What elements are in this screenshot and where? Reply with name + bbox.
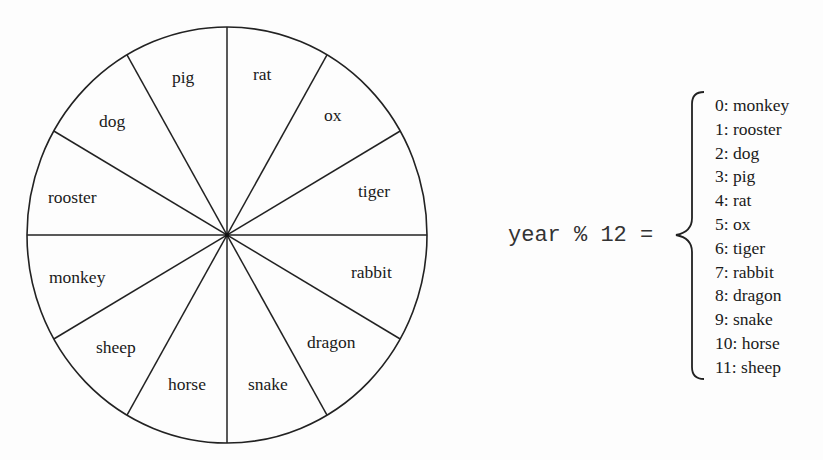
mapping-item-8: 8: dragon — [715, 285, 782, 305]
mapping-item-7: 7: rabbit — [715, 262, 774, 282]
wheel-hub — [225, 233, 229, 237]
wheel-label-horse: horse — [168, 374, 206, 394]
zodiac-wheel: rat ox tiger rabbit dragon snake horse s… — [27, 27, 427, 443]
wheel-label-ox: ox — [324, 105, 342, 125]
wheel-label-sheep: sheep — [96, 337, 136, 357]
wheel-label-pig: pig — [172, 67, 195, 87]
mapping-item-11: 11: sheep — [715, 357, 781, 377]
mapping-item-6: 6: tiger — [715, 238, 765, 258]
wheel-label-rat: rat — [253, 64, 272, 84]
mapping-item-0: 0: monkey — [715, 95, 790, 115]
curly-brace — [676, 92, 704, 379]
wheel-label-monkey: monkey — [49, 267, 106, 287]
mapping-item-3: 3: pig — [715, 166, 756, 186]
mapping-item-4: 4: rat — [715, 190, 752, 210]
wheel-label-dog: dog — [99, 111, 126, 131]
wheel-label-tiger: tiger — [358, 181, 390, 201]
wheel-labels: rat ox tiger rabbit dragon snake horse s… — [48, 64, 392, 394]
wheel-label-rooster: rooster — [48, 187, 97, 207]
wheel-label-dragon: dragon — [307, 332, 356, 352]
mapping-item-9: 9: snake — [715, 309, 773, 329]
mapping-item-5: 5: ox — [715, 214, 751, 234]
mapping-item-1: 1: rooster — [715, 119, 782, 139]
wheel-label-rabbit: rabbit — [351, 262, 392, 282]
mapping-list: 0: monkey 1: rooster 2: dog 3: pig 4: ra… — [715, 95, 790, 377]
zodiac-diagram: rat ox tiger rabbit dragon snake horse s… — [0, 0, 823, 460]
modulo-formula: year % 12 = — [508, 223, 653, 248]
mapping-item-2: 2: dog — [715, 143, 759, 163]
mapping-item-10: 10: horse — [715, 333, 780, 353]
wheel-label-snake: snake — [248, 374, 288, 394]
